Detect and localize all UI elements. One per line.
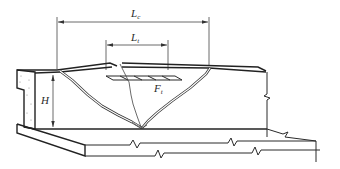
h-label: H <box>40 94 50 106</box>
tension-zone-hatch: Ft <box>106 76 182 96</box>
slab-top-right-inner <box>122 67 266 72</box>
dimension-h: H <box>40 75 55 127</box>
lc-label: Lc <box>130 7 141 21</box>
base-left-top <box>24 127 35 129</box>
slab-top-left-inner <box>60 67 112 72</box>
base-right-edge-break <box>267 129 316 162</box>
slab-top-surface <box>35 63 266 73</box>
end-wall <box>17 70 57 129</box>
hatch-line <box>134 76 142 80</box>
arrowhead-icon <box>51 121 54 127</box>
arrowhead-icon <box>161 43 167 46</box>
hatch-line <box>162 76 170 80</box>
diagram-canvas: Lc Lt Ft <box>0 0 340 169</box>
ft-label: Ft <box>153 82 164 96</box>
concrete-texture <box>20 76 32 121</box>
base-bottom-edge <box>85 147 320 158</box>
arrowhead-icon <box>202 20 208 23</box>
hatch-outline <box>106 76 182 80</box>
arrowhead-icon <box>58 20 64 23</box>
slab-body <box>35 72 270 137</box>
base-mid-edge <box>85 138 316 148</box>
lt-label: Lt <box>130 31 140 45</box>
hatch-line <box>148 76 156 80</box>
end-wall-outline <box>17 70 35 129</box>
slab-right-edge-break <box>264 72 270 137</box>
arrowhead-icon <box>51 75 54 81</box>
slab-top-edge <box>35 72 60 73</box>
arrowhead-icon <box>107 43 113 46</box>
diagonal-cracks <box>60 64 210 128</box>
